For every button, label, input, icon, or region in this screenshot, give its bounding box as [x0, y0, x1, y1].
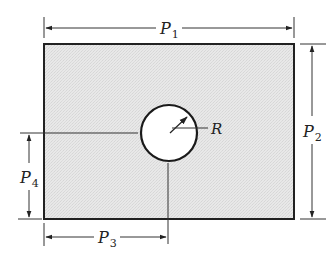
p4-label: P4 — [19, 168, 39, 190]
plate-diagram: R P1 P2 P4 P3 — [0, 0, 336, 264]
radius-label: R — [210, 120, 222, 138]
p2-label: P2 — [302, 122, 322, 144]
hole — [141, 105, 197, 161]
p3-label: P3 — [97, 228, 117, 250]
p1-label: P1 — [159, 19, 179, 41]
